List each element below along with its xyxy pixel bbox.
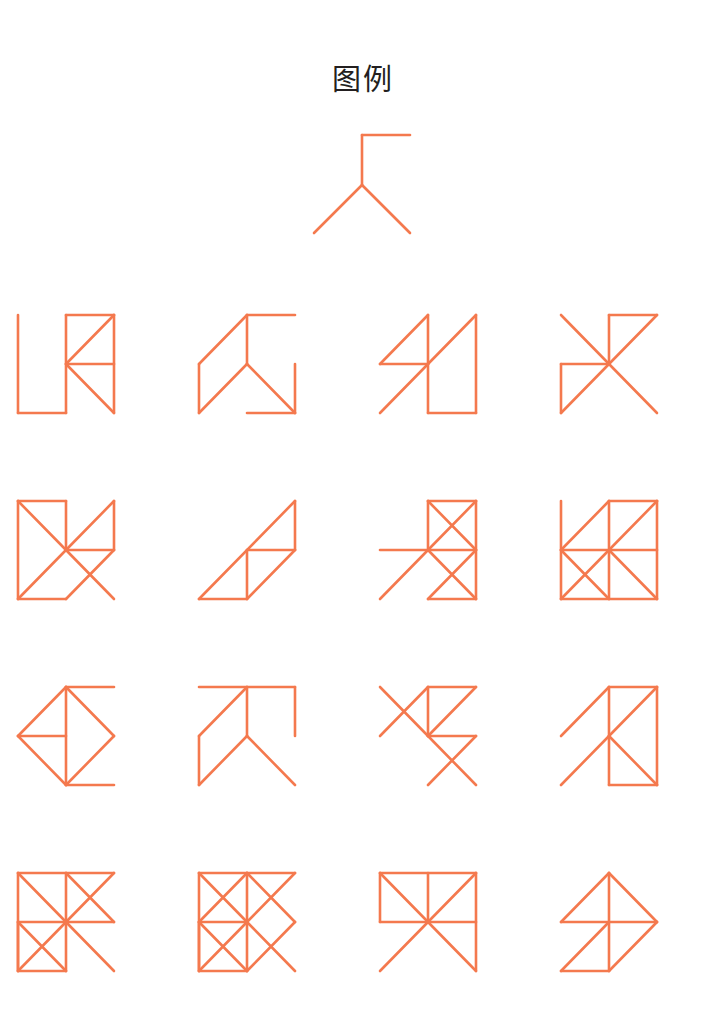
figure-cell [362,285,543,471]
stroke-segment [199,687,247,736]
stroke-segment [66,687,114,736]
stroke-segment [561,364,609,413]
figure-cell [362,843,543,1029]
stroke-segment [66,736,114,785]
stroke-segment [561,736,609,785]
stroke-segment [18,501,66,550]
stroke-segment [609,873,657,922]
stroke-segment [428,922,476,971]
fig-r1c2 [181,285,362,471]
stroke-segment [66,501,114,550]
stroke-segment [18,550,66,599]
stroke-segment [66,315,114,364]
stroke-segment [18,873,66,922]
stroke-segment [428,873,476,922]
stroke-segment [561,315,609,364]
fig-r3c2 [181,657,362,843]
figure-cell [362,471,543,657]
fig-r2c1 [0,471,181,657]
stroke-segment [428,315,476,364]
stroke-segment [561,501,609,550]
figure-cell [0,471,181,657]
fig-r2c2 [181,471,362,657]
stroke-segment [609,315,657,364]
fig-r4c1 [0,843,181,1029]
figure-cell [181,285,362,471]
stroke-segment [199,315,247,364]
stroke-segment [380,364,428,413]
stroke-segment [609,922,657,971]
stroke-segment [247,736,295,785]
stroke-segment [18,736,66,785]
stroke-segment [362,185,410,233]
stroke-segment [314,185,362,233]
figure-cell [181,843,362,1029]
figure-cell [181,657,362,843]
figure-cell [0,285,181,471]
legend-figure [290,120,435,250]
stroke-segment [380,550,428,599]
figure-cell [181,471,362,657]
figure-cell [0,657,181,843]
legend-svg [290,120,435,250]
fig-r4c4 [543,843,724,1029]
stroke-segment [561,687,609,736]
figure-cell [543,657,724,843]
fig-r3c4 [543,657,724,843]
fig-r1c1 [0,285,181,471]
figure-cell [362,657,543,843]
figure-cell [543,843,724,1029]
figure-cell [543,471,724,657]
stroke-segment [609,687,657,736]
stroke-segment [247,550,295,599]
stroke-segment [199,364,247,413]
stroke-segment [380,922,428,971]
stroke-segment [66,922,114,971]
stroke-segment [18,687,66,736]
fig-r4c2 [181,843,362,1029]
stroke-segment [247,364,295,413]
stroke-segment [380,315,428,364]
stroke-segment [561,873,609,922]
fig-r3c3 [362,657,543,843]
fig-r1c3 [362,285,543,471]
stroke-segment [609,501,657,550]
figure-cell [0,843,181,1029]
stroke-segment [66,364,114,413]
fig-r3c1 [0,657,181,843]
stroke-segment [609,364,657,413]
fig-r2c3 [362,471,543,657]
stroke-segment [561,922,609,971]
fig-r4c3 [362,843,543,1029]
fig-r1c4 [543,285,724,471]
page-title: 图例 [0,60,725,100]
stroke-segment [609,550,657,599]
stroke-segment [199,736,247,785]
figure-sheet: 图例 [0,0,725,1030]
stroke-segment [609,736,657,785]
figure-cell [543,285,724,471]
fig-r2c4 [543,471,724,657]
figure-grid [0,285,725,1030]
stroke-segment [380,873,428,922]
stroke-segment [428,687,476,736]
